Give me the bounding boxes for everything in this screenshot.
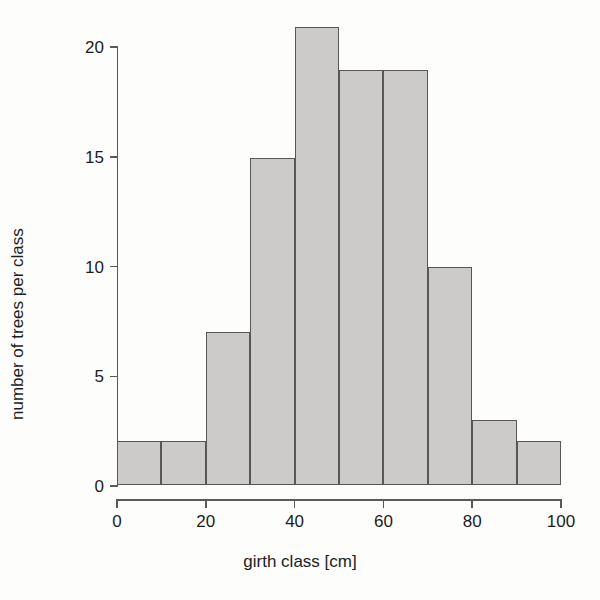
- y-axis: 05101520: [106, 47, 118, 486]
- plot-area: [117, 20, 561, 485]
- y-axis-tick-label: 0: [64, 478, 104, 495]
- x-axis-tick: [383, 499, 385, 508]
- x-axis-tick: [294, 499, 296, 508]
- x-axis-line: [117, 499, 561, 501]
- histogram-bar: [250, 158, 294, 485]
- x-axis-tick: [116, 499, 118, 508]
- y-axis-tick-label: 10: [64, 258, 104, 275]
- histogram-bar: [472, 420, 516, 485]
- x-axis-tick-label: 100: [531, 513, 591, 530]
- y-axis-tick-label: 20: [64, 39, 104, 56]
- y-axis-tick: [110, 46, 118, 48]
- histogram-bar: [206, 332, 250, 485]
- x-axis: 020406080100: [117, 499, 561, 511]
- histogram-figure: 05101520 020406080100 girth class [cm] n…: [0, 0, 600, 600]
- x-axis-tick: [205, 499, 207, 508]
- x-axis-tick-label: 60: [353, 513, 413, 530]
- x-axis-tick-label: 0: [87, 513, 147, 530]
- y-axis-tick: [110, 376, 118, 378]
- y-axis-tick: [110, 266, 118, 268]
- histogram-bar: [295, 27, 339, 485]
- y-axis-tick-label: 5: [64, 368, 104, 385]
- y-axis-tick-label: 15: [64, 148, 104, 165]
- x-axis-tick-label: 20: [176, 513, 236, 530]
- x-axis-tick: [560, 499, 562, 508]
- y-axis-title: number of trees per class: [9, 228, 26, 420]
- x-axis-title: girth class [cm]: [0, 552, 600, 572]
- y-axis-tick: [110, 156, 118, 158]
- x-axis-tick-label: 40: [265, 513, 325, 530]
- histogram-bar: [339, 70, 383, 485]
- histogram-bar: [161, 441, 205, 485]
- y-axis-tick: [110, 485, 118, 487]
- histogram-bar: [383, 70, 427, 485]
- histogram-bar: [117, 441, 161, 485]
- histogram-bar: [517, 441, 561, 485]
- x-axis-tick-label: 80: [442, 513, 502, 530]
- histogram-bar: [428, 267, 472, 485]
- x-axis-tick: [471, 499, 473, 508]
